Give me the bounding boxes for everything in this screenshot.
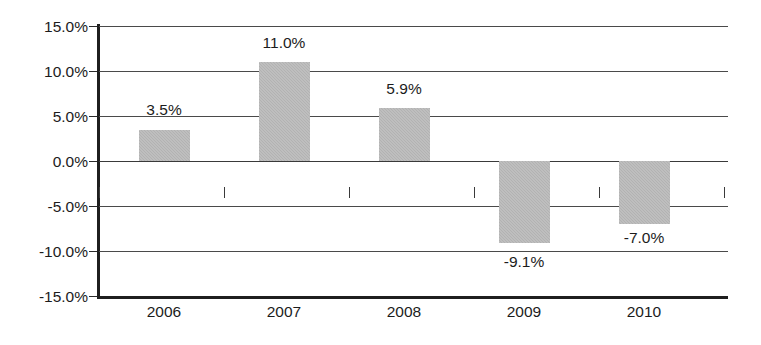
value-label-2008: 5.9% [344,80,464,98]
gridline-10 [99,71,728,72]
y-axis-label-10: 10.0% [0,63,88,81]
x-axis-tick-2 [349,187,350,198]
gridline-neg10 [99,251,728,252]
y-axis-label-neg15: -15.0% [0,288,88,306]
x-axis-line [99,296,728,299]
x-axis-label-2010: 2010 [584,303,704,321]
x-axis-tick-5 [724,187,725,198]
value-label-2007: 11.0% [224,34,344,52]
y-axis-label-5: 5.0% [0,108,88,126]
bar-2009[interactable] [499,161,550,243]
bar-2008[interactable] [379,108,430,161]
x-axis-label-2008: 2008 [344,303,464,321]
x-axis-label-2009: 2009 [464,303,584,321]
x-axis-tick-3 [474,187,475,198]
bar-2010[interactable] [619,161,670,224]
y-axis-label-15: 15.0% [0,18,88,36]
value-label-2010: -7.0% [584,229,704,247]
y-axis-label-0: 0.0% [0,153,88,171]
x-axis-tick-1 [224,187,225,198]
bar-2006[interactable] [139,130,190,162]
x-axis-tick-4 [599,187,600,198]
gridline-15 [99,26,728,27]
x-axis-label-2006: 2006 [104,303,224,321]
value-label-2009: -9.1% [464,253,584,271]
bar-2007[interactable] [259,62,310,161]
y-axis-label-neg5: -5.0% [0,198,88,216]
x-axis-tick-0 [99,187,100,198]
x-axis-label-2007: 2007 [224,303,344,321]
y-axis-label-neg10: -10.0% [0,243,88,261]
value-label-2006: 3.5% [104,101,224,119]
plot-area [99,26,728,296]
bar-chart: 15.0% 10.0% 5.0% 0.0% -5.0% -10.0% -15.0… [0,0,761,345]
